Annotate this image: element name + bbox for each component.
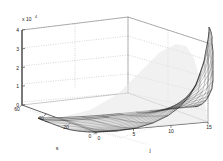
exponent-power: 4 — [35, 15, 37, 19]
back-wall-left-grid — [22, 17, 128, 102]
z-tick-label-4: 4 — [16, 27, 19, 33]
x-tick-label-0: 0 — [89, 133, 92, 139]
mesh-surface — [38, 27, 213, 132]
exponent-mantissa: x 10 — [22, 16, 32, 22]
x-axis-label: s — [56, 145, 59, 151]
plot-canvas: 4 3 2 1 0 60 40 20 0 0 5 10 15 s j x 10 … — [0, 0, 223, 161]
z-tick-label-2: 2 — [16, 65, 19, 71]
y-tick-label-0: 0 — [98, 135, 101, 141]
z-tick-label-1: 1 — [16, 83, 19, 89]
x-tick-label-40: 40 — [38, 115, 44, 121]
z-tick-labels: 4 3 2 1 0 — [16, 27, 19, 108]
z-tick-label-3: 3 — [16, 46, 19, 52]
y-tick-label-5: 5 — [133, 131, 136, 137]
y-tick-label-10: 10 — [168, 128, 174, 134]
z-axis-exponent-label: x 10 4 — [22, 15, 37, 22]
figure-3d-surface-plot: 4 3 2 1 0 60 40 20 0 0 5 10 15 s j x 10 … — [0, 0, 223, 161]
x-tick-label-60: 60 — [14, 106, 20, 112]
y-tick-label-15: 15 — [206, 124, 212, 130]
y-axis-label: j — [148, 147, 150, 153]
x-tick-label-20: 20 — [63, 124, 69, 130]
